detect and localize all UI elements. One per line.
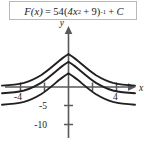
formula-inner-term: 4x bbox=[68, 6, 78, 17]
x-label-4: 4 bbox=[113, 92, 118, 102]
formula-lhs: F(x) bbox=[24, 6, 42, 17]
y-axis-arrowhead bbox=[65, 26, 73, 34]
axis-labels-group: -4 4 -5 -10 y x bbox=[14, 20, 144, 130]
formula-coefficient: 54 bbox=[53, 6, 64, 17]
x-label-minus4: -4 bbox=[14, 92, 22, 102]
formula-equals: = bbox=[45, 6, 51, 17]
y-label-minus5: -5 bbox=[39, 101, 47, 111]
graph-plot: -4 4 -5 -10 y x bbox=[0, 20, 146, 146]
formula-box: F(x) = 54 ( 4x 2 + 9 ) -1 + C bbox=[9, 1, 137, 20]
formula-constant-c: C bbox=[117, 6, 124, 17]
x-axis-title: x bbox=[138, 83, 144, 93]
y-axis-title: y bbox=[59, 20, 65, 28]
formula-expression: F(x) = 54 ( 4x 2 + 9 ) -1 + C bbox=[10, 2, 138, 21]
graph-svg: -4 4 -5 -10 y x bbox=[0, 20, 146, 146]
formula-inner-plus: + bbox=[83, 6, 89, 17]
figure-container: F(x) = 54 ( 4x 2 + 9 ) -1 + C bbox=[0, 0, 146, 146]
formula-outer-plus: + bbox=[108, 6, 114, 17]
y-label-minus10: -10 bbox=[34, 120, 47, 130]
